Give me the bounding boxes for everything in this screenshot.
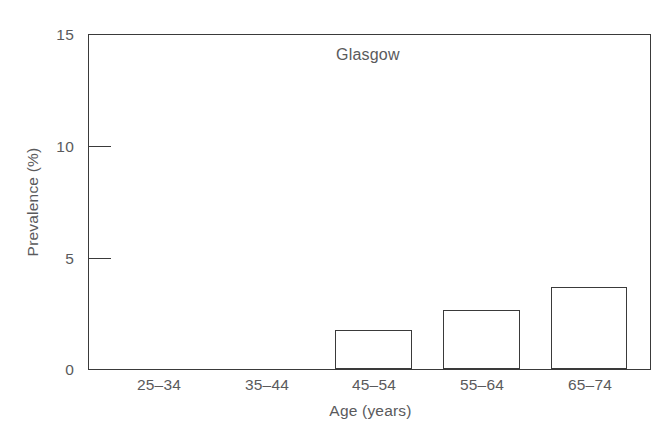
y-tick-mark-5 (89, 258, 111, 259)
y-tick-label-15: 15 (34, 27, 74, 43)
plot-frame (88, 34, 651, 370)
chart-figure: 15 10 5 0 Prevalence (%) Glasgow 25–34 3… (0, 0, 669, 437)
panel-title: Glasgow (336, 47, 400, 63)
x-tick-label-65-74: 65–74 (530, 377, 650, 393)
x-tick-label-55-64: 55–64 (422, 377, 542, 393)
y-axis-title: Prevalence (%) (25, 148, 41, 257)
x-tick-label-45-54: 45–54 (314, 377, 434, 393)
x-axis-title-text: Age (years) (329, 403, 411, 419)
bar-65-74 (551, 287, 627, 369)
x-axis-title: Age (years) (0, 403, 669, 419)
bar-45-54 (335, 330, 412, 369)
y-tick-mark-10 (89, 146, 111, 147)
plot-area (89, 35, 650, 369)
x-tick-label-25-34: 25–34 (99, 377, 219, 393)
y-tick-label-0: 0 (34, 362, 74, 378)
x-tick-label-35-44: 35–44 (207, 377, 327, 393)
bar-55-64 (443, 310, 520, 369)
